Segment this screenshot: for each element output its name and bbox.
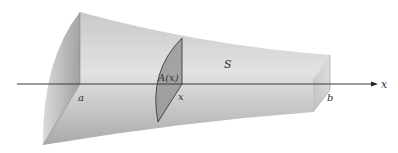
cross-section-label: A(x)	[157, 72, 179, 83]
solid-diagram: x a b x A(x) S	[0, 0, 398, 153]
axis-label: x	[381, 78, 388, 91]
solid-label: S	[224, 58, 232, 71]
slice-position-label: x	[178, 91, 184, 102]
axis-arrow-icon	[371, 82, 378, 87]
solid-body	[43, 12, 330, 145]
right-bound-label: b	[327, 92, 333, 103]
left-bound-label: a	[78, 92, 84, 103]
